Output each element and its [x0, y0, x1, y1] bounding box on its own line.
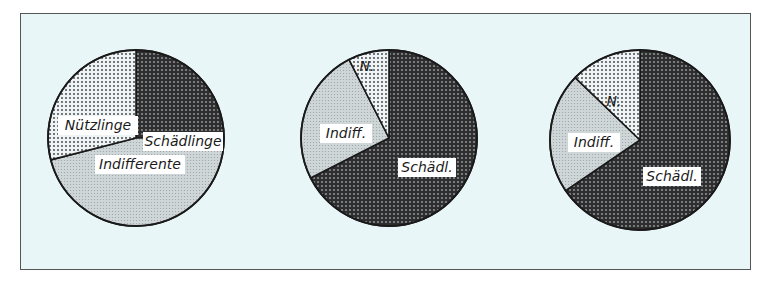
- label-schaedl-pie3: Schädl.: [643, 167, 701, 186]
- pie-slice: [136, 50, 224, 138]
- pie-charts: Nützlinge Schädlinge Indifferente N. Ind…: [0, 0, 770, 286]
- svg-text:Nützlinge: Nützlinge: [65, 117, 131, 133]
- label-indiff-pie3: Indiff.: [568, 133, 620, 152]
- label-n-pie2: N.: [360, 58, 375, 74]
- svg-text:Indifferente: Indifferente: [99, 156, 181, 172]
- label-indiff-pie2: Indiff.: [320, 124, 372, 143]
- svg-text:Indiff.: Indiff.: [574, 134, 614, 150]
- label-n-pie3: N.: [607, 93, 622, 109]
- label-indifferente: Indifferente: [95, 155, 185, 174]
- label-nuetzlinge: Nützlinge: [58, 116, 138, 135]
- svg-text:Schädl.: Schädl.: [646, 168, 697, 184]
- label-schaedl-pie2: Schädl.: [398, 158, 456, 177]
- svg-text:Schädl.: Schädl.: [401, 159, 452, 175]
- svg-text:N.: N.: [607, 93, 622, 109]
- label-schaedlinge: Schädlinge: [143, 132, 223, 151]
- svg-text:Schädlinge: Schädlinge: [144, 133, 221, 149]
- svg-text:N.: N.: [360, 58, 375, 74]
- svg-text:Indiff.: Indiff.: [326, 125, 366, 141]
